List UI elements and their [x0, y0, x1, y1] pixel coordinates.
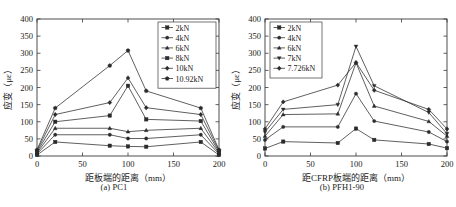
x-tick-label: 100: [122, 159, 135, 169]
chart-b-svg: 050100150200250300350400050100150200距CFR…: [228, 0, 456, 207]
y-tick-label: 200: [20, 83, 33, 93]
x-tick-label: 200: [213, 159, 226, 169]
x-tick-label: 150: [395, 159, 408, 169]
data-point: [108, 114, 112, 118]
data-point: [108, 144, 112, 148]
data-point: [144, 89, 148, 93]
data-point: [445, 140, 448, 143]
data-point: [126, 145, 130, 149]
legend-label: 8kN: [176, 54, 190, 63]
data-point: [53, 112, 57, 116]
y-tick-label: 350: [20, 31, 33, 41]
series-line-2kN: [265, 129, 447, 149]
series-line-4kN: [265, 94, 447, 142]
data-point: [427, 142, 431, 146]
chart-panel-a: 050100150200250300350400050100150200距板端的…: [0, 0, 228, 207]
x-tick-label: 0: [263, 159, 267, 169]
data-point: [199, 106, 203, 110]
data-point: [263, 147, 267, 151]
legend-marker: [165, 26, 169, 30]
data-point: [372, 104, 376, 107]
figure-container: 050100150200250300350400050100150200距板端的…: [0, 0, 456, 207]
y-tick-label: 400: [20, 14, 33, 24]
y-tick-label: 250: [20, 65, 33, 75]
data-point: [199, 119, 203, 123]
legend-label: 6kN: [176, 44, 190, 53]
y-tick-label: 50: [25, 134, 34, 144]
chart-b-plot: 050100150200250300350400050100150200距CFR…: [230, 14, 453, 183]
chart-a-svg: 050100150200250300350400050100150200距板端的…: [0, 0, 228, 207]
y-tick-label: 100: [248, 117, 261, 127]
x-tick-label: 50: [78, 159, 87, 169]
data-point: [126, 137, 129, 140]
data-point: [53, 140, 57, 144]
legend-marker: [277, 26, 281, 30]
data-point: [372, 138, 376, 142]
x-tick-label: 100: [350, 159, 363, 169]
data-point: [282, 125, 285, 128]
data-point: [445, 146, 449, 150]
data-point: [427, 130, 430, 133]
y-tick-label: 50: [253, 134, 262, 144]
data-point: [54, 133, 57, 136]
legend-label: 2kN: [288, 24, 302, 33]
legend-label: 6kN: [288, 44, 302, 53]
y-tick-label: 150: [20, 100, 33, 110]
y-tick-label: 250: [248, 65, 261, 75]
legend-label: 7.726kN: [288, 64, 316, 73]
data-point: [144, 118, 148, 122]
data-point: [336, 141, 340, 145]
legend-marker: [166, 36, 169, 39]
legend-label: 4kN: [288, 34, 302, 43]
data-point: [53, 120, 57, 124]
legend-label: 4kN: [176, 34, 190, 43]
data-point: [199, 133, 202, 136]
data-point: [336, 125, 339, 128]
data-point: [354, 45, 358, 48]
x-tick-label: 50: [306, 159, 315, 169]
data-point: [145, 137, 148, 140]
chart-panel-b: 050100150200250300350400050100150200距CFR…: [228, 0, 456, 207]
y-tick-label: 300: [20, 48, 33, 58]
data-point: [144, 106, 148, 110]
data-point: [126, 48, 130, 52]
data-point: [144, 145, 148, 149]
data-point: [354, 92, 357, 95]
data-point: [373, 119, 376, 122]
legend-label: 7kN: [288, 54, 302, 63]
legend-label: 2kN: [176, 24, 190, 33]
y-tick-label: 100: [20, 117, 33, 127]
legend-label: 10kN: [176, 64, 194, 73]
chart-a-plot: 050100150200250300350400050100150200距板端的…: [2, 14, 225, 183]
legend-marker: [165, 56, 169, 60]
x-tick-label: 0: [35, 159, 39, 169]
data-point: [199, 140, 203, 144]
y-tick-label: 300: [248, 48, 261, 58]
y-tick-label: 350: [248, 31, 261, 41]
y-tick-label: 150: [248, 100, 261, 110]
data-point: [108, 133, 111, 136]
series-line-8kN: [37, 86, 219, 152]
data-point: [199, 112, 203, 116]
y-tick-label: 0: [29, 151, 33, 161]
legend-label: 10.92kN: [176, 75, 204, 84]
data-point: [126, 84, 130, 88]
y-axis-title: 应变（με）: [230, 65, 241, 110]
data-point: [354, 127, 358, 131]
data-point: [263, 138, 266, 141]
y-tick-label: 200: [248, 83, 261, 93]
data-point: [281, 140, 285, 144]
x-tick-label: 200: [441, 159, 454, 169]
chart-b-caption: (b) PFH1-90: [228, 182, 456, 192]
y-axis-title: 应变（με）: [2, 65, 13, 110]
chart-a-caption: (a) PC1: [0, 182, 228, 192]
y-tick-label: 400: [248, 14, 261, 24]
y-tick-label: 0: [257, 151, 261, 161]
x-tick-label: 150: [167, 159, 180, 169]
legend-marker: [278, 36, 281, 39]
